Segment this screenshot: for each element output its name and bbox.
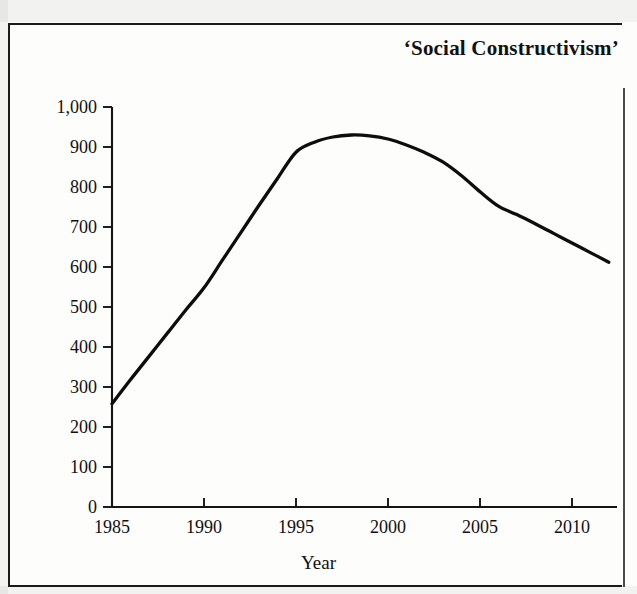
y-tick-label: 600 [70,257,97,277]
x-tick-label: 1985 [94,517,130,537]
x-axis: 198519901995200020052010 [94,498,617,537]
y-tick-label: 700 [70,217,97,237]
y-tick-label: 800 [70,177,97,197]
y-tick-label: 1,000 [57,97,98,117]
x-tick-label: 2005 [462,517,498,537]
data-series-group [112,135,609,404]
y-axis: 01002003004005006007008009001,000 [57,97,113,517]
y-tick-label: 900 [70,137,97,157]
y-tick-label: 200 [70,417,97,437]
x-tick-label: 1990 [186,517,222,537]
y-tick-label: 500 [70,297,97,317]
y-tick-label: 300 [70,377,97,397]
x-tick-label: 1995 [278,517,314,537]
y-tick-label: 400 [70,337,97,357]
x-tick-label: 2000 [370,517,406,537]
series-line-number-of-articles [112,135,609,404]
scanned-page-surface: ‘Social Constructivism’ Number of Articl… [0,0,637,594]
x-tick-label: 2010 [554,517,590,537]
line-chart-plot: 01002003004005006007008009001,000 198519… [0,0,637,594]
y-tick-label: 0 [88,497,97,517]
y-tick-label: 100 [70,457,97,477]
